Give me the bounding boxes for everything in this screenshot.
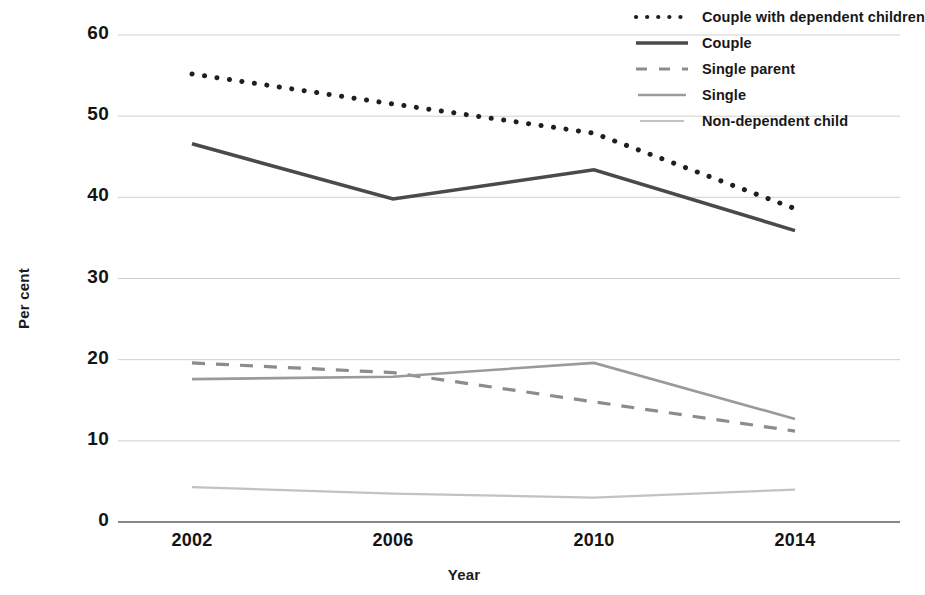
y-tick-label: 60 <box>55 22 109 44</box>
y-tick-label: 0 <box>55 509 109 531</box>
series-line <box>192 487 795 498</box>
legend-item-single-parent: Single parent <box>632 56 922 82</box>
legend-item-couple-with-dependent-children: Couple with dependent children <box>632 4 922 30</box>
solid-light-line-key-icon <box>632 85 692 105</box>
legend-item-label: Non-dependent child <box>692 113 848 129</box>
legend-item-single: Single <box>632 82 922 108</box>
solid-faint-line-key-icon <box>632 111 692 131</box>
y-tick-label: 10 <box>55 428 109 450</box>
solid-line-key-icon <box>632 33 692 53</box>
legend-item-label: Single parent <box>692 61 795 77</box>
x-tick-label: 2002 <box>152 530 232 551</box>
y-tick-label: 20 <box>55 347 109 369</box>
legend-item-label: Single <box>692 87 746 103</box>
series-line <box>192 363 795 431</box>
series-line <box>192 363 795 419</box>
dashed-line-key-icon <box>632 59 692 79</box>
x-tick-label: 2014 <box>755 530 835 551</box>
data-series-layer <box>192 74 795 498</box>
legend-item-non-dependent-child: Non-dependent child <box>632 108 922 134</box>
series-line <box>192 144 795 231</box>
dotted-line-key-icon <box>632 7 692 27</box>
y-tick-label: 50 <box>55 103 109 125</box>
y-axis-title: Per cent <box>15 254 32 344</box>
x-tick-label: 2006 <box>353 530 433 551</box>
legend-item-label: Couple <box>692 35 752 51</box>
y-tick-label: 40 <box>55 184 109 206</box>
x-axis-title: Year <box>424 566 504 583</box>
x-tick-label: 2010 <box>554 530 634 551</box>
y-tick-label: 30 <box>55 266 109 288</box>
legend-item-label: Couple with dependent children <box>692 9 925 25</box>
legend-item-couple: Couple <box>632 30 922 56</box>
chart-legend: Couple with dependent children Couple Si… <box>632 4 922 134</box>
